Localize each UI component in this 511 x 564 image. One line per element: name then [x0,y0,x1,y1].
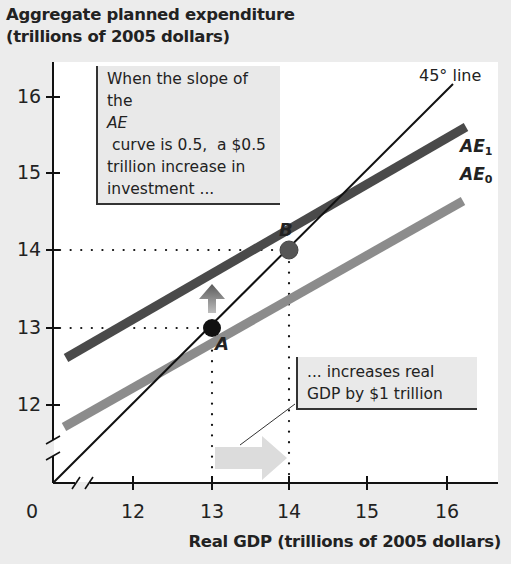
label-ae1-sub: 1 [485,145,493,158]
investment-shift-arrow-icon [199,284,225,313]
callout-connector-line [240,404,295,445]
y-tick-14: 14 [17,238,41,260]
gdp-increase-arrow-icon [215,436,287,480]
callout-top-line1: When the slope of the [107,68,272,112]
x-tick-16: 16 [435,500,459,522]
x-tick-13: 13 [200,500,224,522]
callout-gdp-increase: ... increases real GDP by $1 trillion [296,357,477,410]
y-tick-12: 12 [17,393,41,415]
label-point-a: A [215,333,229,354]
y-tick-16: 16 [17,85,41,107]
x-tick-14: 14 [277,500,301,522]
label-ae0-sub: 0 [485,173,493,186]
point-b-marker [280,241,298,259]
label-45-degree-line: 45° line [419,66,481,85]
label-ae0-main: AE [460,164,485,184]
label-ae0: AE0 [460,164,492,186]
x-axis-title: Real GDP (trillions of 2005 dollars) [188,532,501,551]
x-tick-0: 0 [26,500,38,522]
label-ae1: AE1 [460,136,492,158]
callout-bottom-line2: GDP by $1 trillion [307,383,469,405]
label-ae1-main: AE [460,136,485,156]
x-tick-12: 12 [121,500,145,522]
x-tick-15: 15 [355,500,379,522]
y-tick-15: 15 [17,161,41,183]
y-tick-13: 13 [17,316,41,338]
callout-top-line4: investment ... [107,178,272,200]
callout-top-line2-rest: curve is 0.5, a $0.5 [107,136,266,154]
callout-top-line3: trillion increase in [107,156,272,178]
callout-top-ae-italic: AE [107,114,127,132]
label-point-b: B [279,219,293,240]
callout-top-line2: AE curve is 0.5, a $0.5 [107,112,272,156]
callout-investment: When the slope of the AE curve is 0.5, a… [96,66,280,205]
callout-bottom-line1: ... increases real [307,361,469,383]
